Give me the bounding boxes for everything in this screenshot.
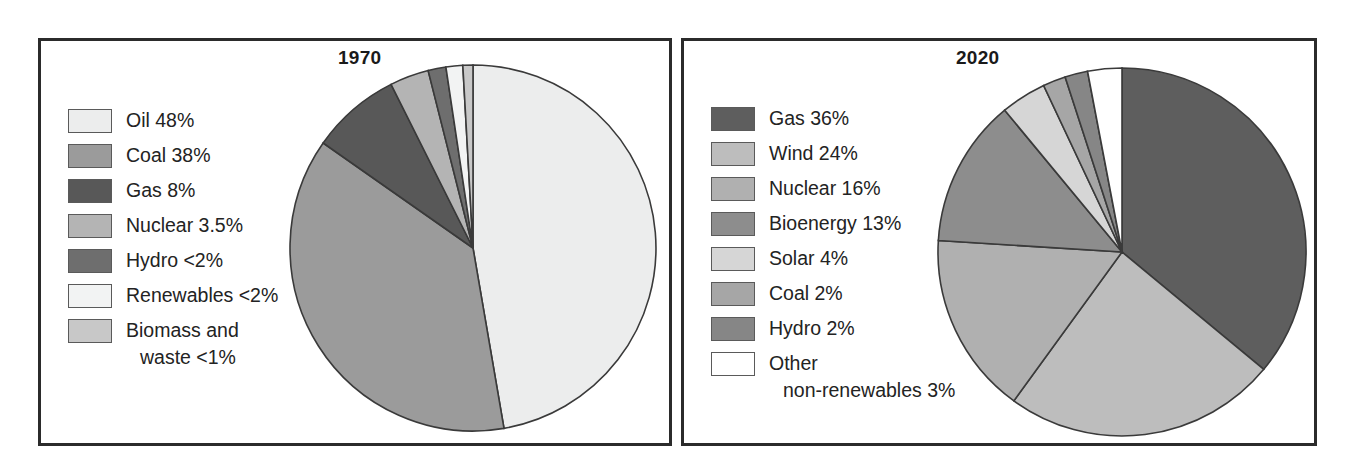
legend-swatch [68,284,112,308]
legend-swatch [68,109,112,133]
legend-swatch [68,214,112,238]
legend-item: Hydro <2% [68,247,278,282]
legend-item: Gas 36% [711,105,955,140]
legend-item-label: Nuclear 3.5% [126,212,243,239]
legend-swatch [711,282,755,306]
legend-swatch [711,107,755,131]
legend-swatch [711,352,755,376]
legend-item-label: Coal 38% [126,142,211,169]
legend-1970: Oil 48%Coal 38%Gas 8%Nuclear 3.5%Hydro <… [68,107,278,371]
legend-item-label: Renewables <2% [126,282,278,309]
legend-item-label-continuation: waste <1% [140,344,239,371]
legend-item: Renewables <2% [68,282,278,317]
legend-item-label-continuation: non-renewables 3% [783,377,955,404]
legend-swatch [711,317,755,341]
legend-swatch [68,179,112,203]
legend-swatch [711,142,755,166]
legend-item-label: Solar 4% [769,245,848,272]
legend-item-label: Gas 8% [126,177,195,204]
legend-item: Oil 48% [68,107,278,142]
legend-item-label: Gas 36% [769,105,849,132]
legend-item-label: Nuclear 16% [769,175,881,202]
legend-swatch [68,144,112,168]
legend-item-label: Oil 48% [126,107,194,134]
legend-item-label: Hydro <2% [126,247,223,274]
legend-item-label: Othernon-renewables 3% [769,350,955,404]
legend-item: Nuclear 3.5% [68,212,278,247]
pie-svg [288,63,658,433]
legend-item-label: Biomass andwaste <1% [126,317,239,371]
legend-item-label: Coal 2% [769,280,843,307]
pie-slice [473,65,656,428]
legend-item: Othernon-renewables 3% [711,350,955,404]
legend-item: Coal 2% [711,280,955,315]
legend-swatch [711,247,755,271]
legend-item-label: Hydro 2% [769,315,855,342]
legend-swatch [711,177,755,201]
legend-item: Nuclear 16% [711,175,955,210]
legend-2020: Gas 36%Wind 24%Nuclear 16%Bioenergy 13%S… [711,105,955,404]
legend-item: Coal 38% [68,142,278,177]
legend-item: Hydro 2% [711,315,955,350]
legend-item: Bioenergy 13% [711,210,955,245]
legend-swatch [711,212,755,236]
legend-item: Gas 8% [68,177,278,212]
panel-2020: 2020 Gas 36%Wind 24%Nuclear 16%Bioenergy… [681,38,1317,446]
legend-item: Solar 4% [711,245,955,280]
legend-item-label: Bioenergy 13% [769,210,901,237]
pie-svg [936,66,1308,438]
panel-1970: 1970 Oil 48%Coal 38%Gas 8%Nuclear 3.5%Hy… [38,38,672,446]
pie-chart-2020 [936,66,1308,438]
legend-item: Biomass andwaste <1% [68,317,278,371]
legend-swatch [68,319,112,343]
two-pie-chart-figure: 1970 Oil 48%Coal 38%Gas 8%Nuclear 3.5%Hy… [0,0,1348,473]
legend-item: Wind 24% [711,140,955,175]
legend-item-label: Wind 24% [769,140,858,167]
pie-chart-1970 [288,63,658,433]
legend-swatch [68,249,112,273]
